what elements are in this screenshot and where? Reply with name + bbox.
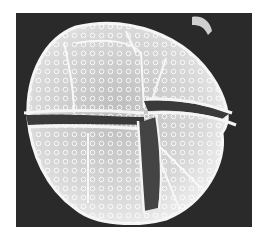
cyst-micrograph <box>16 13 252 227</box>
cyst-body <box>16 13 252 227</box>
micrograph-panel <box>16 13 252 227</box>
debris-particle <box>192 17 212 35</box>
